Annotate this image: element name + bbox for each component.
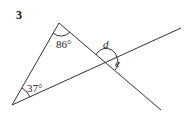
angle-label-37: 37° <box>27 82 42 94</box>
geometry-diagram: 3 86° 37° d e <box>0 0 188 128</box>
transversal-line <box>59 23 161 110</box>
angle-label-e: e <box>115 57 120 69</box>
angle-label-86: 86° <box>56 38 71 50</box>
angle-label-d: d <box>103 38 109 50</box>
question-number: 3 <box>16 8 22 22</box>
angle-arc-86 <box>53 32 70 36</box>
